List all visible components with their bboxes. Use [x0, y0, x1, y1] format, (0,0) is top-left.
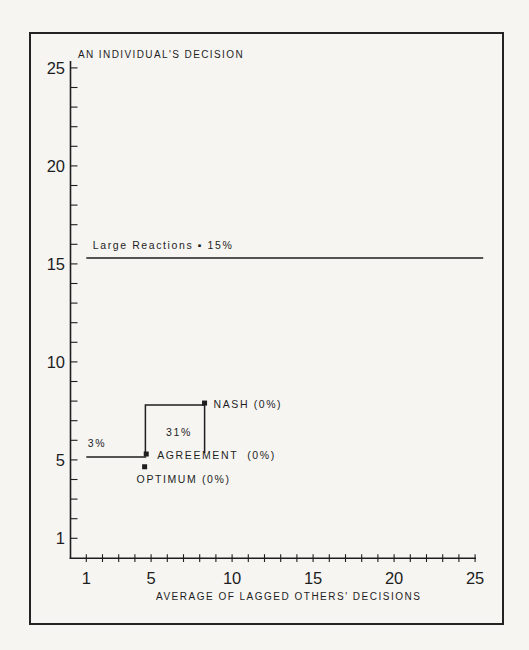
x-tick-label-5: 5 — [147, 569, 156, 587]
x-tick-label-20: 20 — [385, 569, 403, 587]
y-tick-label-25: 25 — [47, 59, 65, 77]
x-tick-label-10: 10 — [223, 569, 241, 587]
y-tick-label-20: 20 — [47, 157, 65, 175]
figure-canvas: { "figure": { "background": "#f6f5f2", "… — [0, 0, 529, 650]
large-reactions-label: Large Reactions ▪ 15% — [93, 239, 234, 251]
nash-marker — [202, 401, 207, 406]
y-tick-label-5: 5 — [56, 451, 65, 469]
x-tick-label-15: 15 — [304, 569, 322, 587]
plot-svg: 15101520251510152025Large Reactions ▪ 15… — [0, 0, 529, 650]
x-tick-label-25: 25 — [466, 569, 484, 587]
optimum-label: OPTIMUM (0%) — [137, 473, 231, 485]
y-axis-title: AN INDIVIDUAL'S DECISION — [78, 49, 244, 60]
pct-31-label: 31% — [166, 426, 192, 438]
y-tick-label-10: 10 — [47, 353, 65, 371]
pct-3-label: 3% — [88, 437, 106, 449]
optimum-marker — [142, 464, 147, 469]
agreement-marker — [144, 452, 149, 457]
x-axis-title: AVERAGE OF LAGGED OTHERS' DECISIONS — [156, 591, 402, 602]
nash-label: NASH (0%) — [214, 398, 283, 410]
agreement-label: AGREEMENT (0%) — [157, 449, 276, 461]
y-tick-label-15: 15 — [47, 255, 65, 273]
y-tick-label-1: 1 — [56, 529, 65, 547]
x-tick-label-1: 1 — [82, 569, 91, 587]
